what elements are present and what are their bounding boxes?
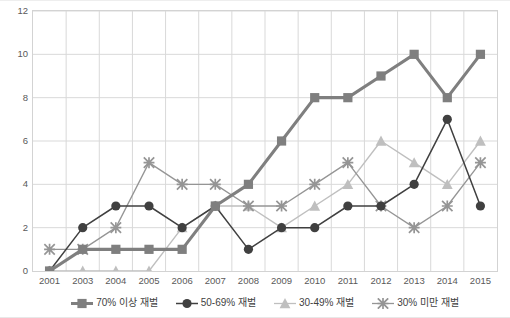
data-point-cross — [442, 201, 453, 212]
y-tick-label: 10 — [2, 50, 28, 60]
data-point-circle — [144, 201, 153, 210]
data-point-circle — [178, 223, 187, 232]
data-point-circle — [376, 201, 385, 210]
data-point-cross — [475, 157, 486, 168]
data-point-square — [277, 136, 286, 145]
y-axis: 024681012 — [0, 10, 28, 272]
cross-marker-icon — [372, 298, 394, 309]
data-point-square — [443, 93, 452, 102]
data-point-triangle — [309, 201, 320, 211]
data-point-square — [144, 245, 153, 254]
top-divider — [0, 0, 510, 1]
x-tick-label: 2006 — [172, 276, 193, 286]
x-tick-label: 2012 — [370, 276, 391, 286]
y-tick-label: 2 — [2, 223, 28, 233]
data-point-cross — [110, 222, 121, 233]
circle-marker-icon — [176, 298, 198, 309]
legend-label: 70% 이상 재벌 — [96, 298, 158, 308]
data-point-circle — [111, 201, 120, 210]
y-tick-label: 0 — [2, 266, 28, 276]
data-point-square — [476, 50, 485, 59]
data-point-circle — [244, 245, 253, 254]
x-tick-label: 2015 — [470, 276, 491, 286]
data-point-square — [111, 245, 120, 254]
x-tick-label: 2008 — [238, 276, 259, 286]
data-point-square — [376, 71, 385, 80]
legend-label: 30% 미만 재벌 — [397, 298, 459, 308]
legend-item-1[interactable]: 50-69% 재벌 — [176, 298, 256, 309]
triangle-marker-icon — [274, 298, 296, 309]
x-tick-label: 2004 — [105, 276, 126, 286]
legend-item-0[interactable]: 70% 이상 재벌 — [71, 298, 158, 309]
legend-label: 50-69% 재벌 — [201, 298, 256, 308]
data-point-cross — [378, 298, 389, 309]
plot-svg — [33, 11, 497, 271]
x-tick-label: 2014 — [437, 276, 458, 286]
square-marker-icon — [71, 298, 93, 309]
x-tick-label: 2013 — [404, 276, 425, 286]
x-tick-label: 2003 — [72, 276, 93, 286]
gridlines — [33, 11, 497, 271]
data-point-triangle — [409, 157, 420, 167]
x-tick-label: 2011 — [338, 276, 358, 286]
line-chart: 024681012 200120032004200520062007200820… — [0, 0, 510, 318]
x-axis: 2001200320042005200620072008200920102011… — [32, 276, 498, 290]
data-point-square — [45, 266, 54, 271]
data-point-cross — [342, 157, 353, 168]
chart-legend: 70% 이상 재벌50-69% 재벌30-49% 재벌30% 미만 재벌 — [32, 294, 498, 312]
x-tick-label: 2001 — [39, 276, 60, 286]
data-point-cross — [144, 157, 155, 168]
legend-item-3[interactable]: 30% 미만 재벌 — [372, 298, 459, 309]
data-point-cross — [210, 179, 221, 190]
x-tick-label: 2007 — [205, 276, 226, 286]
data-point-square — [244, 180, 253, 189]
data-point-circle — [443, 115, 452, 124]
data-point-circle — [78, 223, 87, 232]
y-tick-label: 4 — [2, 180, 28, 190]
data-point-circle — [277, 223, 286, 232]
data-point-cross — [44, 244, 55, 255]
data-point-square — [178, 245, 187, 254]
data-point-cross — [309, 179, 320, 190]
y-tick-label: 12 — [2, 6, 28, 16]
data-point-circle — [343, 201, 352, 210]
data-point-cross — [243, 201, 254, 212]
x-tick-label: 2005 — [138, 276, 159, 286]
data-point-square — [78, 245, 87, 254]
data-point-circle — [310, 223, 319, 232]
y-tick-label: 6 — [2, 136, 28, 146]
data-point-triangle — [110, 266, 121, 271]
data-point-circle — [476, 201, 485, 210]
data-point-cross — [276, 201, 287, 212]
data-point-square — [78, 298, 87, 307]
data-point-circle — [182, 298, 191, 307]
x-tick-label: 2010 — [304, 276, 325, 286]
data-point-triangle — [77, 266, 88, 271]
data-point-cross — [177, 179, 188, 190]
data-point-square — [343, 93, 352, 102]
plot-area — [32, 10, 498, 272]
y-tick-label: 8 — [2, 93, 28, 103]
data-point-circle — [410, 180, 419, 189]
data-point-square — [310, 93, 319, 102]
legend-item-2[interactable]: 30-49% 재벌 — [274, 298, 354, 309]
legend-label: 30-49% 재벌 — [299, 298, 354, 308]
x-tick-label: 2009 — [271, 276, 292, 286]
data-point-cross — [409, 222, 420, 233]
data-point-square — [211, 201, 220, 210]
data-point-square — [410, 50, 419, 59]
